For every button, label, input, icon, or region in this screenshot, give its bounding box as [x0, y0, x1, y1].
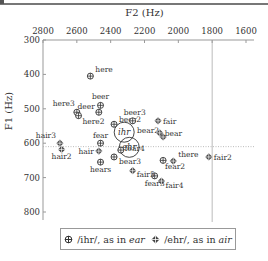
point-label: beer	[92, 92, 110, 101]
legend-item-ihr: /ihr/, as in ear	[64, 234, 145, 245]
point-label: fair	[163, 117, 177, 126]
point-label: bear3	[119, 157, 141, 166]
point-beer2	[111, 121, 117, 127]
point-label: hair	[79, 147, 95, 156]
point-label: fear2	[165, 162, 185, 171]
point-label: deer	[78, 102, 96, 111]
point-beer	[98, 102, 104, 108]
point-fair5	[129, 167, 136, 174]
point-label: here2	[83, 117, 105, 126]
ellipse-label-ihr: ihr	[118, 127, 131, 137]
y-tick-label: 700	[24, 173, 40, 183]
circle-plus-icon	[64, 235, 73, 244]
point-hair3	[56, 140, 63, 147]
y-tick-label: 500	[24, 104, 40, 114]
point-deer	[96, 109, 102, 115]
point-label: bear	[165, 129, 183, 138]
y-tick-label: 300	[24, 35, 40, 45]
scatter-plot: 2800260024002200200018001600300400500600…	[0, 0, 268, 261]
point-label: fair5	[137, 170, 155, 179]
legend-ihr-word: ear	[129, 234, 145, 245]
point-fair	[154, 117, 161, 124]
point-label: here	[95, 65, 113, 74]
legend-ihr-text: /ihr/, as in	[77, 234, 129, 245]
x-tick-label: 2400	[100, 26, 122, 36]
diamond-plus-icon	[151, 235, 160, 244]
point-label: here3	[53, 99, 75, 108]
legend-ehr-word: air	[219, 234, 232, 245]
x-tick-label: 2200	[134, 26, 156, 36]
point-fear4	[118, 147, 124, 153]
point-label: hair2	[52, 152, 72, 161]
x-axis-title: F2 (Hz)	[125, 7, 163, 18]
point-fear	[98, 140, 104, 146]
point-label: hair3	[36, 131, 56, 140]
point-label: hears	[90, 165, 111, 174]
x-tick-label: 1800	[201, 26, 223, 36]
point-label: fair4	[165, 181, 183, 190]
y-tick-label: 800	[24, 207, 40, 217]
point-label: beer3	[124, 108, 146, 117]
x-tick-label: 1600	[235, 26, 257, 36]
point-here	[87, 73, 93, 79]
point-beer3	[130, 118, 136, 124]
point-label: fear	[93, 131, 109, 140]
x-tick-label: 2600	[66, 26, 88, 36]
legend: /ihr/, as in ear /ehr/, as in air	[60, 228, 236, 250]
y-axis-title: F1 (Hz)	[3, 92, 14, 130]
point-label: bear2	[137, 126, 159, 135]
point-here2	[76, 113, 82, 119]
point-bear3	[111, 154, 117, 160]
legend-ehr-text: /ehr/, as in	[164, 234, 218, 245]
point-hair	[95, 148, 102, 155]
point-label: fair2	[214, 153, 232, 162]
point-label: there	[178, 150, 199, 159]
point-fair2	[205, 153, 212, 160]
legend-item-ehr: /ehr/, as in air	[151, 234, 232, 245]
point-label: fear4	[125, 144, 145, 153]
y-tick-label: 400	[24, 69, 40, 79]
x-tick-label: 2000	[168, 26, 190, 36]
